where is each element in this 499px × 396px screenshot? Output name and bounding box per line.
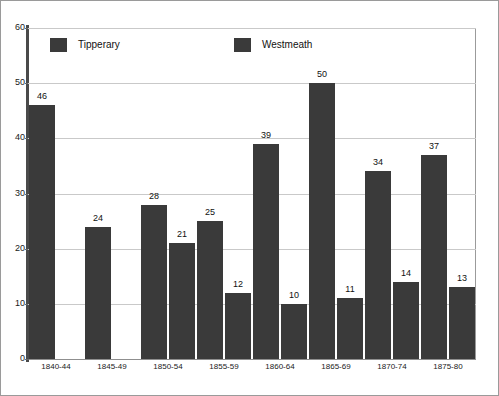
bar-value-label: 25 — [190, 208, 230, 217]
bar-value-label: 11 — [330, 285, 370, 294]
bar-value-label: 34 — [358, 158, 398, 167]
y-axis-tick-label: 10 — [3, 299, 25, 308]
x-axis-tick-label: 1840-44 — [28, 363, 84, 371]
x-axis-tick-label: 1870-74 — [364, 363, 420, 371]
x-axis-tick-labels: 1840-441845-491850-541855-591860-641865-… — [28, 363, 476, 383]
x-axis-tick-label: 1875-80 — [420, 363, 476, 371]
bar-value-label: 46 — [22, 92, 62, 101]
bar[interactable] — [253, 144, 279, 359]
bar[interactable] — [225, 293, 251, 359]
bar[interactable] — [421, 155, 447, 359]
bar[interactable] — [29, 105, 55, 359]
x-axis-tick-label: 1845-49 — [84, 363, 140, 371]
y-axis-tick-label: 40 — [3, 133, 25, 142]
x-axis-tick-label: 1850-54 — [140, 363, 196, 371]
bar-value-label: 12 — [218, 280, 258, 289]
chart-legend: TipperaryWestmeath — [28, 28, 476, 58]
y-axis-tick-mark — [25, 359, 29, 360]
y-axis-tick-label: 50 — [3, 78, 25, 87]
bar-value-label: 37 — [414, 142, 454, 151]
y-axis-tick-label: 30 — [3, 189, 25, 198]
bar[interactable] — [281, 304, 307, 359]
bar-value-label: 28 — [134, 192, 174, 201]
x-axis-tick-label: 1860-64 — [252, 363, 308, 371]
bar[interactable] — [449, 287, 475, 359]
bar-value-label: 50 — [302, 70, 342, 79]
plot-area: 4624282125123910501134143713 TipperaryWe… — [28, 28, 476, 359]
y-axis-tick-label: 0 — [3, 354, 25, 363]
gridline — [28, 194, 476, 195]
bar[interactable] — [141, 205, 167, 359]
bar[interactable] — [365, 171, 391, 359]
x-axis-tick-label: 1865-69 — [308, 363, 364, 371]
bar[interactable] — [337, 298, 363, 359]
chart-figure: 6050403020100 46242821251239105011341437… — [0, 0, 499, 396]
bar[interactable] — [309, 83, 335, 359]
y-axis-tick-labels: 6050403020100 — [1, 28, 25, 359]
bar-value-label: 24 — [78, 214, 118, 223]
bar-value-label: 10 — [274, 291, 314, 300]
legend-label: Tipperary — [78, 40, 120, 50]
x-axis-baseline — [28, 359, 476, 360]
y-axis-tick-label: 20 — [3, 244, 25, 253]
legend-entry[interactable]: Tipperary — [50, 37, 120, 53]
bar[interactable] — [197, 221, 223, 359]
gridline — [28, 83, 476, 84]
legend-label: Westmeath — [262, 40, 312, 50]
bar[interactable] — [85, 227, 111, 359]
bar-value-label: 14 — [386, 269, 426, 278]
bar[interactable] — [393, 282, 419, 359]
x-axis-tick-label: 1855-59 — [196, 363, 252, 371]
y-axis-tick-label: 60 — [3, 23, 25, 32]
legend-swatch-icon — [234, 38, 251, 52]
legend-entry[interactable]: Westmeath — [234, 37, 312, 53]
bar-value-label: 39 — [246, 131, 286, 140]
bar-value-label: 13 — [442, 274, 482, 283]
bar[interactable] — [169, 243, 195, 359]
bar-value-label: 21 — [162, 230, 202, 239]
legend-swatch-icon — [50, 38, 67, 52]
